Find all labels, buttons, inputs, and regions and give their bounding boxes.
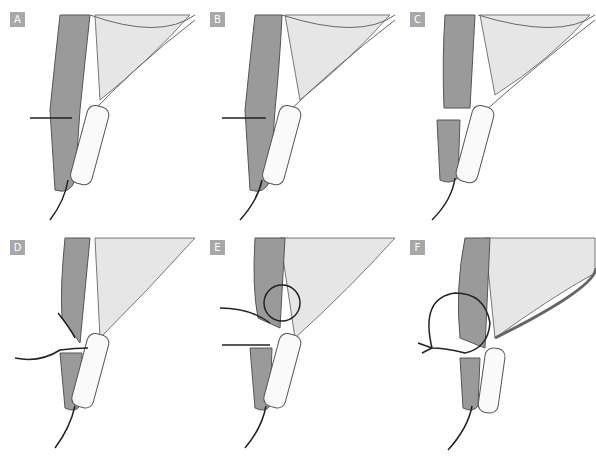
illustration [200, 228, 396, 453]
illustration [400, 228, 596, 453]
illustration [400, 0, 596, 225]
panel-f: F [400, 228, 596, 453]
fat-tissue [95, 15, 190, 100]
illustration [200, 0, 396, 225]
panel-d: D [0, 228, 196, 453]
panel-c: C [400, 0, 596, 225]
illustration [0, 228, 196, 453]
panel-e: E [200, 228, 396, 453]
panel-b: B [200, 0, 396, 225]
panel-a: A [0, 0, 196, 225]
illustration [0, 0, 196, 225]
